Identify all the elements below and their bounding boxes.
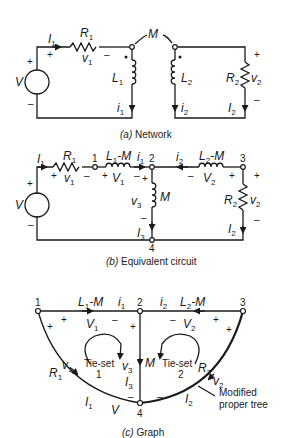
resistor-r2 <box>239 184 247 210</box>
minus-sign: – <box>170 314 176 325</box>
node-3 <box>241 309 246 314</box>
label-R2: R2 <box>224 193 238 209</box>
label-v3: v3 <box>122 359 133 375</box>
tie-set-1-num: 1 <box>96 369 102 380</box>
label-R1: R1 <box>80 26 94 42</box>
inductor-m <box>152 183 156 207</box>
wire <box>37 47 70 70</box>
node-3-label: 3 <box>240 297 246 308</box>
label-I2: I2 <box>228 101 236 117</box>
plus-sign: + <box>47 49 53 60</box>
label-i2: i2 <box>160 295 168 311</box>
minus-sign: – <box>84 170 90 181</box>
plus-sign: + <box>51 170 57 181</box>
figure-canvas: I1 R1 v1 + – + – V M L1 i1 L2 i2 R2 v2 +… <box>0 0 285 438</box>
terminal <box>173 45 178 50</box>
label-i2: i2 <box>181 101 189 117</box>
label-M: M <box>160 190 170 204</box>
caption-b: (b) Equivalent circuit <box>106 256 197 267</box>
label-L2: L2 <box>181 71 193 87</box>
voltage-source <box>25 193 49 217</box>
inductor-l1-minus-m <box>106 163 130 167</box>
label-L1-M: L1-M <box>78 295 103 311</box>
minus-sign: – <box>28 98 34 109</box>
plus-sign: + <box>254 49 260 60</box>
caption-c: (c) Graph <box>122 427 164 438</box>
inductor-l1 <box>132 60 136 84</box>
panel-c-graph: 1 2 3 4 L1-M i1 i2 L2-M + + V1 – + – V2 … <box>35 295 268 438</box>
label-L1-M: L1-M <box>106 149 131 165</box>
node-1-label: 1 <box>35 297 41 308</box>
label-L2-M: L2-M <box>199 149 224 165</box>
label-L1: L1 <box>112 71 124 87</box>
plus-sign: + <box>229 170 235 181</box>
label-i1: i1 <box>137 150 145 166</box>
label-i2: i2 <box>176 150 184 166</box>
label-I2: I2 <box>228 222 236 238</box>
node-4-label: 4 <box>149 243 155 254</box>
node-3 <box>241 165 246 170</box>
plus-sign: + <box>27 178 33 189</box>
label-V: V <box>15 198 24 212</box>
label-V: V <box>111 403 120 417</box>
minus-sign: – <box>188 170 194 181</box>
minus-sign: – <box>112 314 118 325</box>
annotation-line2: proper tree <box>219 399 268 410</box>
label-M: M <box>145 356 155 370</box>
node-2 <box>138 309 143 314</box>
minus-sign: – <box>28 219 34 230</box>
label-v1: v1 <box>64 171 75 187</box>
caption-a: (a) Network <box>120 129 173 140</box>
tie-set-2-num: 2 <box>178 369 184 380</box>
plus-sign: + <box>27 56 33 67</box>
node-1 <box>93 165 98 170</box>
tie-set-2-label: Tie-set <box>162 358 192 369</box>
plus-sign: + <box>47 321 53 332</box>
label-i1: i1 <box>118 295 126 311</box>
label-L2-M: L2-M <box>180 295 205 311</box>
mutual-arc-right <box>163 35 172 43</box>
plus-sign: + <box>142 173 148 184</box>
label-V1: V1 <box>86 317 99 333</box>
inductor-l2-minus-m <box>199 163 223 167</box>
mutual-arc-left <box>135 35 147 44</box>
label-V2: V2 <box>183 317 196 333</box>
terminal <box>130 45 135 50</box>
label-I3: I3 <box>137 226 145 242</box>
wire <box>177 47 245 62</box>
panel-b-equivalent-circuit: I1 R1 1 L1-M i1 2 i2 L2-M 3 + v1 – + V1 … <box>15 149 261 267</box>
label-M: M <box>148 27 158 41</box>
label-V2: V2 <box>203 171 216 187</box>
label-R1: R1 <box>49 366 63 382</box>
node-3-label: 3 <box>240 153 246 164</box>
node-2-label: 2 <box>149 153 155 164</box>
panel-a-network: I1 R1 v1 + – + – V M L1 i1 L2 i2 R2 v2 +… <box>15 26 262 140</box>
plus-sign: + <box>102 170 108 181</box>
minus-sign: – <box>141 212 147 223</box>
node-2-label: 2 <box>137 297 143 308</box>
minus-sign: – <box>128 391 134 402</box>
plus-sign: + <box>213 314 219 325</box>
voltage-source <box>25 70 49 94</box>
plus-sign: + <box>130 321 136 332</box>
label-v1: v1 <box>82 51 93 67</box>
label-I1: I1 <box>48 32 56 48</box>
node-1 <box>36 309 41 314</box>
label-v1: v1 <box>62 358 73 374</box>
label-v3: v3 <box>131 194 142 210</box>
node-1-label: 1 <box>92 153 98 164</box>
label-I3: I3 <box>125 375 133 391</box>
minus-sign: – <box>254 94 260 105</box>
tie-set-1-label: Tie-set <box>84 358 114 369</box>
node-2 <box>150 165 155 170</box>
label-R2: R2 <box>226 71 240 87</box>
resistor-r1 <box>70 43 96 51</box>
label-I2: I2 <box>185 392 193 408</box>
minus-sign: – <box>254 214 260 225</box>
label-I1: I1 <box>37 152 45 168</box>
plus-sign: + <box>226 324 232 335</box>
node-4-label: 4 <box>137 408 143 419</box>
label-V1: V1 <box>112 171 125 187</box>
label-v2: v2 <box>250 193 261 209</box>
plus-sign: + <box>61 314 67 325</box>
